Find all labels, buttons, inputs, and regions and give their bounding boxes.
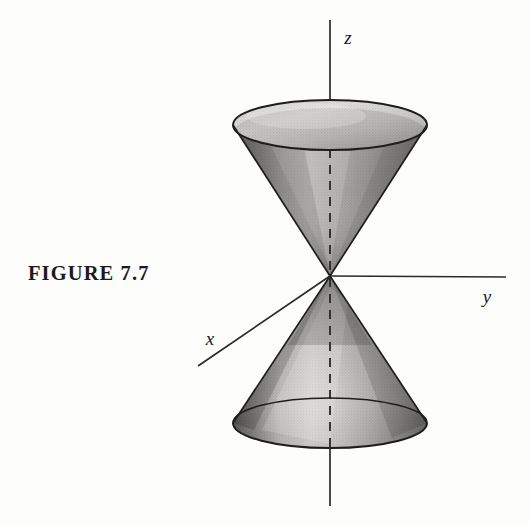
z-axis-label: z — [343, 27, 352, 48]
double-cone-figure: z y x — [0, 0, 530, 526]
figure-page: FIGURE 7.7 — [0, 0, 530, 526]
lower-cone — [233, 276, 427, 448]
upper-cone — [233, 100, 427, 276]
y-axis — [330, 276, 506, 277]
y-axis-label: y — [481, 286, 492, 307]
x-axis-label: x — [205, 328, 215, 349]
